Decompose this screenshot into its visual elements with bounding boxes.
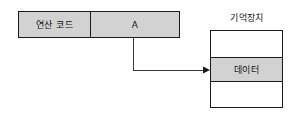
memory-cell-empty-bottom bbox=[211, 82, 282, 107]
operand-to-data-arrow bbox=[133, 38, 210, 74]
arrow-head-icon bbox=[203, 67, 210, 74]
opcode-field: 연산 코드 bbox=[19, 12, 91, 37]
memory-unit-title: 기억장치 bbox=[206, 11, 288, 24]
memory-cell-empty-top bbox=[211, 31, 282, 58]
memory-cell-data: 데이터 bbox=[211, 58, 282, 82]
instruction-word-box: 연산 코드 A bbox=[18, 11, 180, 38]
instruction-memory-diagram: 연산 코드 A 기억장치 데이터 bbox=[0, 0, 298, 120]
operand-field: A bbox=[91, 12, 179, 37]
memory-unit-box: 데이터 bbox=[210, 30, 283, 108]
arrow-path bbox=[133, 38, 203, 70]
